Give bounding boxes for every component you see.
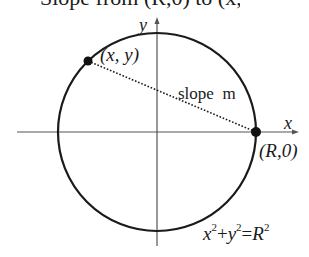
point-general bbox=[84, 57, 93, 66]
y-axis-arrow-icon bbox=[155, 17, 160, 24]
x-axis-label: x bbox=[284, 114, 292, 132]
point-general-label: (x, y) bbox=[100, 45, 139, 64]
point-fixed bbox=[251, 127, 261, 137]
circle-equation: x2+y2=R2 bbox=[203, 222, 269, 243]
slope-label: slope m bbox=[178, 85, 236, 102]
y-axis-label: y bbox=[139, 16, 147, 34]
eq-r: R bbox=[252, 223, 264, 244]
eq-y: y bbox=[228, 223, 236, 244]
eq-plus: + bbox=[217, 223, 228, 244]
circle-slope-diagram bbox=[0, 0, 309, 257]
x-axis-arrow-icon bbox=[292, 130, 299, 135]
eq-r-exp: 2 bbox=[264, 221, 270, 233]
eq-equals: = bbox=[242, 223, 253, 244]
point-fixed-label: (R,0) bbox=[259, 141, 298, 160]
